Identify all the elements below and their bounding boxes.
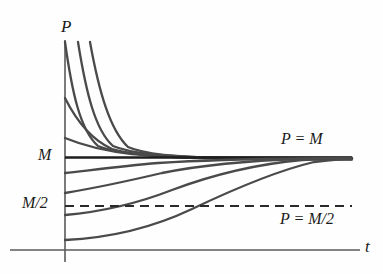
tick-label-M-half: M/2 — [22, 195, 48, 211]
curves-below-asymptote — [65, 158, 352, 240]
asymptote-annotation-P-equals-M: P = M — [281, 131, 323, 147]
logistic-growth-figure: P t M M/2 P = M P = M/2 — [0, 0, 383, 274]
solution-curve-below-4 — [65, 159, 352, 240]
tick-label-M: M — [38, 147, 51, 163]
p-axis-label: P — [61, 18, 71, 35]
plot-canvas — [0, 0, 383, 274]
reference-annotation-P-equals-M-half: P = M/2 — [280, 211, 334, 227]
t-axis-label: t — [365, 238, 370, 255]
